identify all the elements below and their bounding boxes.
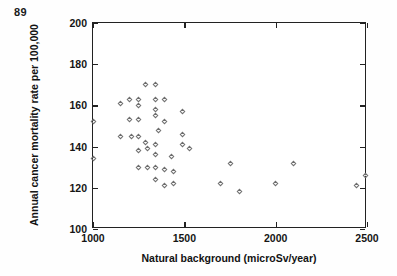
y-tick-mark-right <box>360 229 365 230</box>
x-tick-mark <box>367 222 368 227</box>
scatter-point <box>91 119 96 124</box>
y-tick-label: 120 <box>69 182 87 194</box>
scatter-point <box>162 97 167 102</box>
scatter-point <box>153 82 158 87</box>
scatter-point <box>180 132 185 137</box>
y-tick-mark-right <box>360 188 365 189</box>
scatter-point <box>153 107 158 112</box>
y-tick-mark <box>93 147 98 148</box>
scatter-point <box>237 189 242 194</box>
scatter-point <box>136 97 141 102</box>
x-tick-mark <box>93 222 94 227</box>
scatter-point <box>129 134 134 139</box>
x-tick-label: 1000 <box>81 232 104 244</box>
scatter-point <box>127 97 132 102</box>
y-tick-label: 180 <box>69 58 87 70</box>
scatter-point <box>153 142 158 147</box>
y-tick-mark-right <box>360 147 365 148</box>
scatter-point <box>162 183 167 188</box>
y-axis-title: Annual cancer mortality rate per 100,000 <box>28 24 40 226</box>
scatter-point <box>228 161 233 166</box>
plot-area: 100120140160180200 1000150020002500 <box>92 22 366 228</box>
x-tick-mark <box>276 222 277 227</box>
scatter-point <box>143 82 148 87</box>
y-tick-label: 140 <box>69 141 87 153</box>
x-tick-mark-top <box>367 23 368 28</box>
scatter-point <box>169 154 174 159</box>
scatter-point <box>363 173 368 178</box>
scatter-point <box>187 146 192 151</box>
scatter-point <box>153 97 158 102</box>
y-tick-mark <box>93 229 98 230</box>
scatter-point <box>143 140 148 145</box>
scatter-point <box>145 146 150 151</box>
scatter-point <box>136 148 141 153</box>
x-axis-title: Natural background (microSv/year) <box>141 252 316 264</box>
x-tick-label: 2500 <box>355 232 378 244</box>
figure-container: 89 Annual cancer mortality rate per 100,… <box>0 0 397 276</box>
scatter-point <box>118 134 123 139</box>
scatter-point <box>91 156 96 161</box>
scatter-point <box>153 165 158 170</box>
y-tick-mark <box>93 188 98 189</box>
scatter-point <box>273 181 278 186</box>
scatter-point <box>291 161 296 166</box>
scatter-point <box>153 152 158 157</box>
x-tick-mark <box>184 222 185 227</box>
page-number: 89 <box>14 6 27 18</box>
scatter-point <box>127 117 132 122</box>
y-tick-mark <box>93 105 98 106</box>
y-tick-mark-right <box>360 105 365 106</box>
y-tick-mark-right <box>360 64 365 65</box>
scatter-point <box>145 165 150 170</box>
scatter-point <box>153 113 158 118</box>
y-tick-label: 200 <box>69 17 87 29</box>
x-tick-mark-top <box>276 23 277 28</box>
x-tick-label: 2000 <box>264 232 287 244</box>
scatter-point <box>162 119 167 124</box>
y-tick-mark <box>93 64 98 65</box>
scatter-point <box>153 177 158 182</box>
scatter-point <box>171 181 176 186</box>
scatter-point <box>136 134 141 139</box>
scatter-point <box>354 183 359 188</box>
y-tick-label: 160 <box>69 99 87 111</box>
scatter-point <box>156 128 161 133</box>
x-tick-mark-top <box>93 23 94 28</box>
scatter-point <box>136 103 141 108</box>
scatter-point <box>218 181 223 186</box>
scatter-point <box>136 117 141 122</box>
scatter-point <box>118 101 123 106</box>
x-tick-mark-top <box>184 23 185 28</box>
scatter-point <box>171 169 176 174</box>
x-tick-label: 1500 <box>173 232 196 244</box>
scatter-point <box>136 165 141 170</box>
scatter-point <box>162 167 167 172</box>
scatter-point <box>180 142 185 147</box>
scatter-point <box>180 109 185 114</box>
y-tick-mark-right <box>360 23 365 24</box>
